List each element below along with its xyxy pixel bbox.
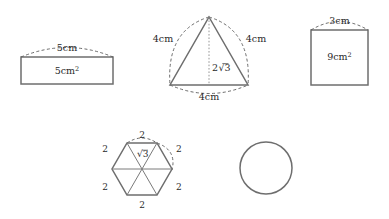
shape-rectangle-group: 5cm 5cm2 [21, 42, 113, 84]
hexagon-upper-right-label: 2 [176, 144, 182, 154]
hexagon-apothem-label-group: √3 [137, 149, 149, 159]
triangle-base-label: 4cm [199, 91, 219, 102]
square-arc-label: 3cm [329, 15, 349, 26]
triangle-left-side-label: 4cm [153, 33, 173, 44]
shape-triangle-group: 4cm 4cm 4cm 2√3 [153, 17, 266, 102]
square-area-value: 9cm [327, 51, 347, 62]
hexagon-lower-right-label: 2 [176, 182, 182, 192]
rectangle-area-exponent: 2 [75, 65, 79, 73]
shape-circle-group [240, 142, 292, 194]
triangle-height-prefix: 2 [212, 62, 218, 73]
hexagon-top-label: 2 [139, 130, 145, 140]
geometry-figure-canvas: 5cm 5cm2 4cm 4cm 4cm 2√3 [0, 0, 389, 219]
circle-outline [240, 142, 292, 194]
hexagon-upper-left-label: 2 [102, 144, 108, 154]
hexagon-lower-left-label: 2 [102, 182, 108, 192]
shape-hexagon-group: 2 2 2 2 2 2 √3 [102, 130, 181, 210]
triangle-height-label-group: 2√3 [212, 62, 231, 73]
shape-square-group: 3cm 9cm2 [311, 15, 368, 85]
square-area-exponent: 2 [348, 51, 352, 59]
rectangle-area-value: 5cm [55, 65, 75, 76]
triangle-right-side-label: 4cm [246, 33, 266, 44]
hexagon-bottom-label: 2 [139, 200, 145, 210]
rectangle-arc-label: 5cm [57, 42, 77, 53]
